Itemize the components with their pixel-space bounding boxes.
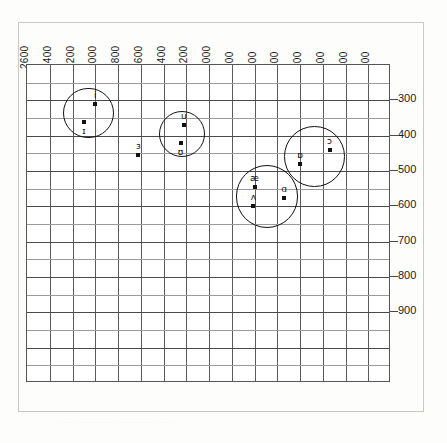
y-axis-tick [390,99,398,100]
vowel-point [136,153,140,157]
vertical-gridline [50,65,51,381]
horizontal-gridline-minor [27,295,389,296]
horizontal-gridline-major [27,312,389,313]
vertical-gridline [232,65,233,381]
plot-area: iɪuʊɜɔɒæɑʌ [26,64,390,382]
vowel-formant-chart: 2600240022002000180016001400120010009008… [0,0,447,443]
vowel-group-circle [284,126,345,187]
y-axis-tick-label: 600 [398,198,416,210]
horizontal-gridline-minor [27,224,389,225]
vertical-gridline [141,65,142,381]
horizontal-gridline-major [27,348,389,349]
y-axis-tick-label: 900 [398,304,416,316]
y-axis-tick-label: 300 [398,92,416,104]
horizontal-gridline-major [27,242,389,243]
vertical-gridline [346,65,347,381]
y-axis-tick-label: 700 [398,234,416,246]
y-axis-tick-label: 800 [398,269,416,281]
horizontal-gridline-minor [27,189,389,190]
vertical-gridline [368,65,369,381]
y-axis-tick [390,276,398,277]
y-axis-tick [390,135,398,136]
horizontal-gridline-minor [27,365,389,366]
y-axis-tick [390,311,398,312]
vowel-group-circle [236,165,298,227]
y-axis-tick-label: 400 [398,128,416,140]
y-axis-tick-label: 500 [398,163,416,175]
scan-artifact: . . . . . . . . . . . . . . . . . . . . … [60,418,172,424]
vertical-gridline [323,65,324,381]
figure-page: 2600240022002000180016001400120010009008… [0,0,447,443]
horizontal-gridline-minor [27,83,389,84]
y-axis-tick [390,241,398,242]
vowel-group-circle [159,111,205,157]
vertical-gridline [118,65,119,381]
horizontal-gridline-minor [27,259,389,260]
vertical-gridline [164,65,165,381]
horizontal-gridline-major [27,277,389,278]
horizontal-gridline-minor [27,330,389,331]
vertical-gridline [209,65,210,381]
y-axis-tick [390,205,398,206]
y-axis-tick [390,170,398,171]
vowel-group-circle [63,88,113,138]
horizontal-gridline-major [27,206,389,207]
vowel-label: ɜ [136,142,141,151]
vertical-gridline [300,65,301,381]
